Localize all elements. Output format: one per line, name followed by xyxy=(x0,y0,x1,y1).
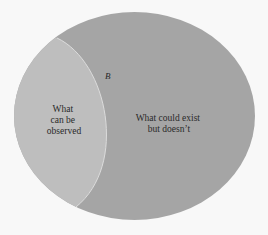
venn-diagram: B What can be observed What could exist … xyxy=(0,0,268,235)
inner-label-line-1: What xyxy=(53,104,74,114)
boundary-label: B xyxy=(105,71,111,81)
outer-label-line-2: but doesn’t xyxy=(148,124,191,134)
inner-label-line-2: can be xyxy=(51,115,76,125)
outer-label-line-1: What could exist xyxy=(136,113,201,123)
inner-label-line-3: observed xyxy=(47,126,82,136)
